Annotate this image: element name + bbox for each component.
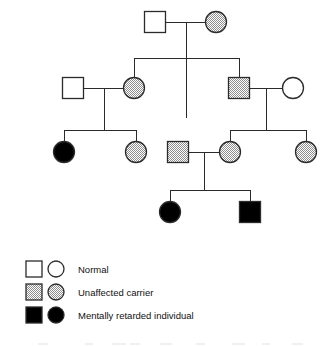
pedigree-chart: NormalUnaffected carrierMentally retarde…: [0, 0, 331, 346]
page-edge-artifact: [130, 343, 140, 345]
pedigree-svg: NormalUnaffected carrierMentally retarde…: [0, 0, 331, 346]
page-edge-artifact: [85, 343, 93, 345]
page-edge-artifact: [232, 343, 245, 345]
individual-female-affected[interactable]: [54, 142, 75, 163]
individual-male-normal[interactable]: [63, 78, 84, 99]
individual-female-carrier[interactable]: [296, 142, 317, 163]
individual-female-carrier[interactable]: [124, 78, 145, 99]
individual-female-carrier[interactable]: [126, 142, 147, 163]
legend-label: Normal: [78, 264, 109, 275]
individual-female-carrier[interactable]: [206, 12, 227, 33]
legend-square-normal: [26, 261, 42, 277]
individual-male-carrier[interactable]: [229, 78, 250, 99]
legend-square-carrier: [26, 284, 42, 300]
legend-label: Unaffected carrier: [78, 287, 153, 298]
individual-male-normal[interactable]: [145, 12, 166, 33]
legend-label: Mentally retarded individual: [78, 310, 194, 321]
legend-circle-carrier: [48, 284, 64, 300]
page-edge-artifact: [112, 343, 126, 345]
legend-circle-affected: [48, 307, 64, 323]
page-edge-artifact: [160, 343, 172, 345]
individual-female-affected[interactable]: [160, 202, 181, 223]
individual-female-normal[interactable]: [283, 78, 304, 99]
legend-square-affected: [26, 307, 42, 323]
page-edge-artifact: [262, 343, 270, 345]
legend-circle-normal: [48, 261, 64, 277]
individual-male-carrier[interactable]: [168, 142, 189, 163]
individual-male-affected[interactable]: [240, 202, 261, 223]
page-edge-artifact: [196, 343, 205, 345]
page-edge-artifact: [38, 343, 48, 345]
individual-female-carrier[interactable]: [220, 142, 241, 163]
page-edge-artifact: [292, 343, 303, 345]
